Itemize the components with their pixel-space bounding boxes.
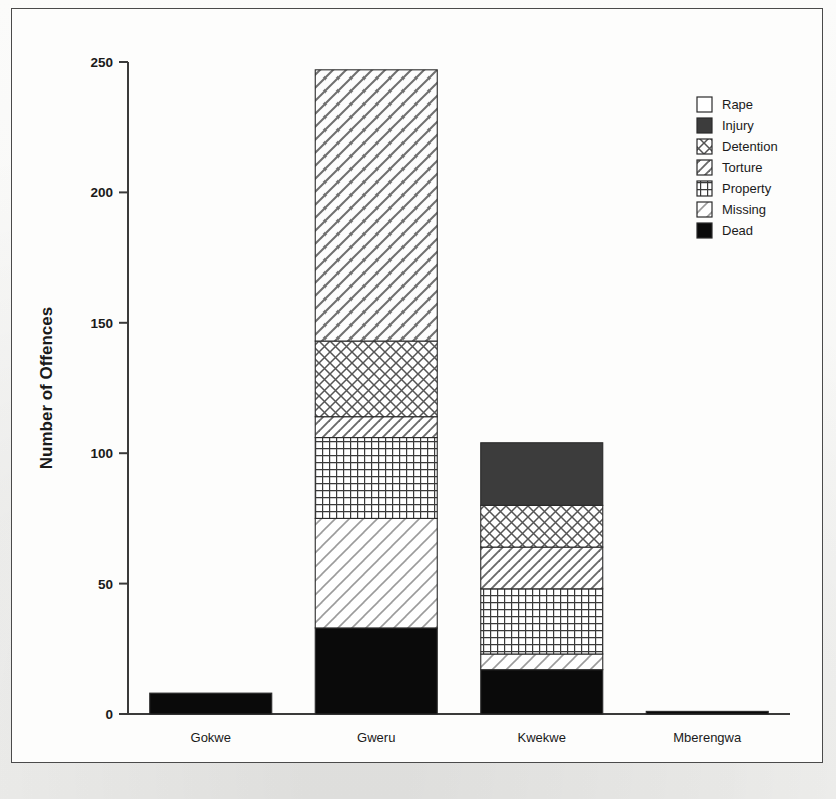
y-tick-label: 150 bbox=[90, 316, 113, 331]
y-axis-label: Number of Offences bbox=[37, 307, 56, 469]
bar-segment-kwekwe-torture[interactable] bbox=[481, 547, 603, 589]
chart-legend: RapeInjuryDetentionTorturePropertyMissin… bbox=[697, 97, 778, 238]
legend-swatch-torture bbox=[697, 160, 712, 175]
bars-group bbox=[150, 70, 769, 714]
x-category-label-kwekwe: Kwekwe bbox=[518, 730, 566, 745]
legend-swatch-rape bbox=[697, 97, 712, 112]
bar-segment-kwekwe-dead[interactable] bbox=[481, 670, 603, 714]
bar-segment-gweru-dead[interactable] bbox=[315, 628, 437, 714]
x-category-label-gweru: Gweru bbox=[357, 730, 395, 745]
bar-segment-gweru-detention[interactable] bbox=[315, 341, 437, 417]
bar-segment-gweru-torture[interactable] bbox=[315, 417, 437, 438]
x-category-label-mberengwa: Mberengwa bbox=[673, 730, 742, 745]
y-tick-group: 050100150200250 bbox=[90, 55, 128, 722]
bar-segment-gweru-property[interactable] bbox=[315, 438, 437, 519]
legend-label-property: Property bbox=[722, 181, 772, 196]
bar-gweru[interactable] bbox=[315, 70, 437, 714]
y-tick-label: 250 bbox=[90, 55, 113, 70]
legend-label-injury: Injury bbox=[722, 118, 754, 133]
bar-segment-kwekwe-injury[interactable] bbox=[481, 443, 603, 506]
legend-swatch-missing bbox=[697, 202, 712, 217]
bar-segment-kwekwe-missing[interactable] bbox=[481, 654, 603, 670]
bar-segment-kwekwe-property[interactable] bbox=[481, 589, 603, 654]
bar-segment-mberengwa-dead[interactable] bbox=[646, 711, 768, 714]
legend-swatch-property bbox=[697, 181, 712, 196]
bar-segment-kwekwe-detention[interactable] bbox=[481, 505, 603, 547]
bar-kwekwe[interactable] bbox=[481, 443, 603, 714]
y-tick-label: 0 bbox=[105, 707, 113, 722]
legend-label-torture: Torture bbox=[722, 160, 762, 175]
bar-mberengwa[interactable] bbox=[646, 711, 768, 714]
chart-canvas: Number of Offences 050100150200250 Gokwe… bbox=[0, 0, 836, 799]
bar-segment-gweru-rape[interactable] bbox=[315, 70, 437, 341]
bar-segment-gokwe-dead[interactable] bbox=[150, 693, 272, 714]
axes bbox=[128, 62, 790, 714]
legend-swatch-dead bbox=[697, 223, 712, 238]
legend-swatch-injury bbox=[697, 118, 712, 133]
legend-swatch-detention bbox=[697, 139, 712, 154]
legend-label-dead: Dead bbox=[722, 223, 753, 238]
y-tick-label: 100 bbox=[90, 446, 113, 461]
category-label-group: GokweGweruKwekweMberengwa bbox=[191, 730, 742, 745]
legend-label-detention: Detention bbox=[722, 139, 778, 154]
legend-label-rape: Rape bbox=[722, 97, 753, 112]
bar-gokwe[interactable] bbox=[150, 693, 272, 714]
y-tick-label: 50 bbox=[98, 577, 113, 592]
stacked-bar-chart: Number of Offences 050100150200250 Gokwe… bbox=[0, 0, 836, 799]
bar-segment-gweru-missing[interactable] bbox=[315, 518, 437, 628]
y-tick-label: 200 bbox=[90, 185, 113, 200]
legend-label-missing: Missing bbox=[722, 202, 766, 217]
x-category-label-gokwe: Gokwe bbox=[191, 730, 231, 745]
